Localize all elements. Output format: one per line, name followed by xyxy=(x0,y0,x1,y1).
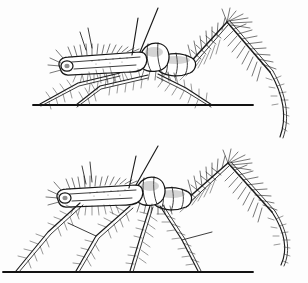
upper-antenna-left xyxy=(132,18,138,55)
lower-midleg-spur xyxy=(68,223,96,236)
lower-hindleg-knee-tuft xyxy=(223,149,252,170)
lower-head xyxy=(46,176,143,215)
lower-hindleg-far-hairs xyxy=(157,214,199,265)
upper-hindleg-tibia-hairs xyxy=(224,24,276,81)
figure-root xyxy=(0,0,308,283)
upper-hindleg-knee-tuft xyxy=(222,8,252,28)
lower-hindleg-near-hairs xyxy=(126,212,157,264)
lower-hindleg-tibia-hairs xyxy=(225,165,277,222)
lower-posture-panel xyxy=(3,146,290,272)
lower-hindleg-far-spur xyxy=(182,232,212,240)
lower-hindleg-long xyxy=(180,149,290,266)
upper-hindleg-femur-hairs xyxy=(186,18,225,64)
upper-posture-panel xyxy=(33,8,289,138)
lower-foreleg xyxy=(16,203,83,272)
lower-hindleg-far xyxy=(157,205,212,271)
lower-hindleg-near xyxy=(126,206,157,272)
lower-hindleg-femur-hairs xyxy=(186,156,225,198)
insect-posture-plate xyxy=(0,0,308,283)
upper-hindleg-long xyxy=(180,8,289,138)
upper-head-seta-long xyxy=(88,28,92,48)
upper-head xyxy=(48,44,147,83)
